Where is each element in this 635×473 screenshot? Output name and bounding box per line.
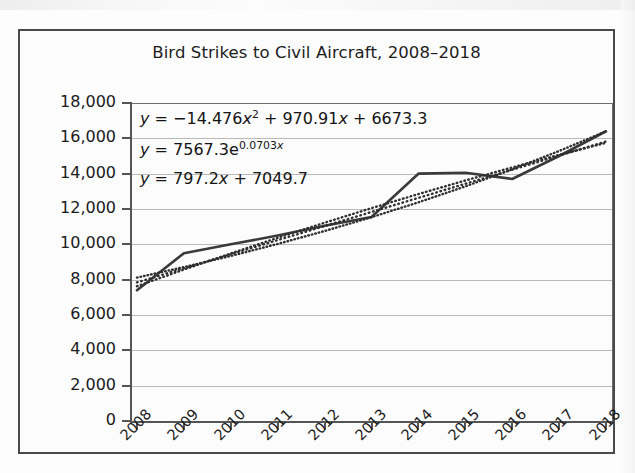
y-axis-tick-label: 2,000 bbox=[20, 375, 116, 394]
linear-equation: y = 797.2x + 7049.7 bbox=[140, 170, 470, 188]
y-axis-tick-label: 14,000 bbox=[20, 163, 116, 182]
y-axis-tick bbox=[122, 102, 132, 104]
y-axis-tick bbox=[122, 243, 132, 245]
exponential-equation: y = 7567.3e0.0703x bbox=[140, 140, 470, 160]
y-axis-tick bbox=[122, 208, 132, 210]
figure-frame: Bird Strikes to Civil Aircraft, 2008–201… bbox=[18, 29, 615, 454]
y-axis-tick-label: 4,000 bbox=[20, 339, 116, 358]
y-axis-labels: 18,00016,00014,00012,00010,0008,0006,000… bbox=[20, 31, 120, 456]
y-axis-tick-label: 18,000 bbox=[20, 92, 116, 111]
scan-page: Bird Strikes to Civil Aircraft, 2008–201… bbox=[0, 0, 635, 473]
y-axis-tick-label: 12,000 bbox=[20, 198, 116, 217]
y-axis-tick-label: 8,000 bbox=[20, 269, 116, 288]
y-axis-tick bbox=[122, 173, 132, 175]
y-axis-tick-label: 16,000 bbox=[20, 127, 116, 146]
y-axis-tick bbox=[122, 279, 132, 281]
y-axis-tick bbox=[122, 420, 132, 422]
scan-artifact-top bbox=[0, 0, 635, 10]
y-axis-tick-label: 6,000 bbox=[20, 304, 116, 323]
scan-artifact-right bbox=[621, 0, 635, 473]
y-axis-tick bbox=[122, 385, 132, 387]
y-axis-tick bbox=[122, 314, 132, 316]
y-axis-tick bbox=[122, 349, 132, 351]
y-axis-tick bbox=[122, 137, 132, 139]
x-axis-tick-label: 2008 bbox=[117, 406, 154, 443]
trendline-equations: y = −14.476x2 + 970.91x + 6673.3y = 7567… bbox=[140, 109, 470, 200]
quadratic-equation: y = −14.476x2 + 970.91x + 6673.3 bbox=[140, 109, 470, 129]
y-axis-tick-label: 0 bbox=[20, 410, 116, 429]
y-axis-tick-label: 10,000 bbox=[20, 233, 116, 252]
